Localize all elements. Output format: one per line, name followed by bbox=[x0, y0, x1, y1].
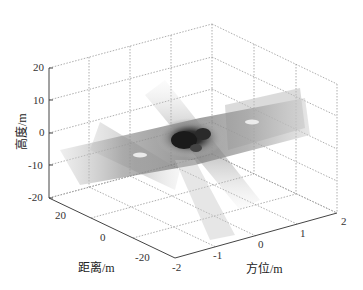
z-tick-neg20: -20 bbox=[28, 192, 43, 203]
z-axis-label: 高度/m bbox=[16, 113, 28, 150]
z-tick-10: 10 bbox=[33, 95, 44, 106]
y-axis-line bbox=[49, 198, 175, 258]
y-tick-0: 0 bbox=[100, 232, 106, 243]
x-tick-1: 1 bbox=[300, 228, 306, 239]
x-tick-2: 2 bbox=[341, 216, 347, 227]
x-tick-neg2: -2 bbox=[172, 262, 181, 273]
x-tick-0: 0 bbox=[258, 239, 264, 250]
y-tick-20: 20 bbox=[55, 210, 66, 221]
x-axis-line bbox=[175, 213, 337, 258]
x-axis-label: 方位/m bbox=[246, 263, 283, 275]
z-tick-0: 0 bbox=[39, 127, 45, 138]
plot-3d-canvas bbox=[0, 0, 363, 290]
y-axis-label: 距离/m bbox=[78, 262, 115, 274]
y-tick-neg20: -20 bbox=[135, 252, 150, 263]
z-tick-20: 20 bbox=[33, 62, 44, 73]
z-tick-neg10: -10 bbox=[28, 160, 43, 171]
x-tick-neg1: -1 bbox=[213, 250, 222, 261]
